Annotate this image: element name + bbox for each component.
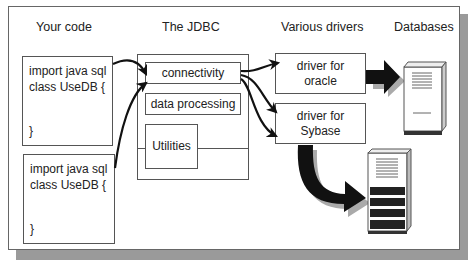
sybase-database-server-icon bbox=[368, 149, 411, 234]
oracle-database-server-icon bbox=[404, 62, 446, 135]
arrow-code2-to-connectivity bbox=[115, 83, 146, 168]
arrow-connectivity-to-sybase-1 bbox=[241, 75, 276, 112]
thick-arrow-sybase-to-db bbox=[298, 145, 370, 217]
arrow-code1-to-connectivity bbox=[113, 60, 146, 74]
thick-arrow-oracle-to-db bbox=[366, 60, 405, 97]
arrow-connectivity-to-oracle bbox=[241, 63, 278, 71]
arrows-and-servers bbox=[0, 0, 472, 265]
